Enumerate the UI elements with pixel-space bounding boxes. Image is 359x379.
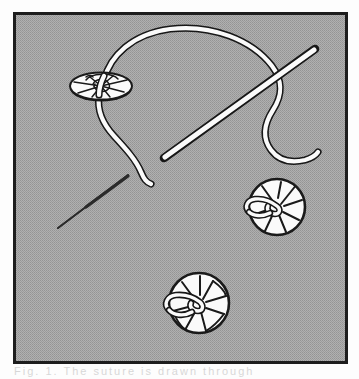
figure-caption: Fig. 1. The suture is drawn through bbox=[0, 364, 359, 379]
tissue-disc-edge-on bbox=[70, 73, 132, 102]
tissue-disc-right bbox=[247, 179, 305, 235]
illustration-canvas bbox=[0, 0, 359, 379]
figure-root: Fig. 1. The suture is drawn through bbox=[0, 0, 359, 379]
